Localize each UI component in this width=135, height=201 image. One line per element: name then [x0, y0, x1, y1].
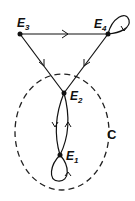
edge-e2-e1 [52, 93, 64, 155]
node-e2 [62, 91, 67, 96]
label-e2: E2 [70, 89, 83, 105]
state-graph: E3 E4 E2 E1 C [0, 0, 135, 201]
edge-e4-loop [108, 16, 129, 34]
edge-e3-e2 [20, 34, 64, 93]
node-e3 [18, 32, 23, 37]
edge-e3-e4 [20, 30, 108, 38]
edge-e4-e2 [64, 34, 108, 93]
closed-class-boundary [15, 74, 109, 190]
label-e1: E1 [66, 149, 79, 165]
label-e3: E3 [17, 16, 30, 32]
label-closed-class: C [107, 127, 117, 142]
node-e1 [58, 153, 63, 158]
label-e4: E4 [94, 17, 107, 33]
